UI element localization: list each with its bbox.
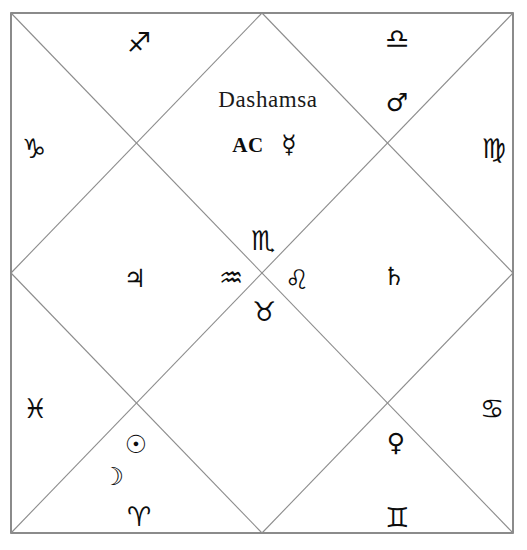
planet-jupiter-glyph[interactable]: ♃ <box>124 266 146 291</box>
chart-title: Dashamsa <box>218 87 317 113</box>
sign-cancer-glyph[interactable]: ♋ <box>480 395 504 422</box>
planet-sun-glyph[interactable]: ☉ <box>125 432 147 457</box>
sign-scorpio-glyph[interactable]: ♏ <box>251 227 275 254</box>
ascendant-label: AC <box>232 133 263 158</box>
sign-taurus-glyph[interactable]: ♉ <box>252 298 276 325</box>
planet-moon-glyph[interactable]: ☽ <box>102 464 124 489</box>
sign-pisces-glyph[interactable]: ♓ <box>23 395 47 422</box>
planet-venus-glyph[interactable]: ♀ <box>387 430 405 455</box>
sign-aries-glyph[interactable]: ♈ <box>127 503 151 530</box>
sign-virgo-glyph[interactable]: ♍ <box>482 135 506 162</box>
planet-mars-glyph[interactable]: ♂ <box>386 90 408 115</box>
sign-gemini-glyph[interactable]: ♊ <box>385 504 409 531</box>
sign-libra-glyph[interactable]: ♎ <box>385 25 409 52</box>
sign-aquarius-glyph[interactable]: ♒ <box>219 264 243 291</box>
planet-saturn-glyph[interactable]: ♄ <box>383 264 405 289</box>
dashamsa-chart: Dashamsa AC ☿ ♐ ♎ ♂ ♑ ♍ ♏ ♒ ♌ ♉ ♃ ♄ ♓ ♋ … <box>0 0 527 550</box>
sign-capricorn-glyph[interactable]: ♑ <box>22 135 46 162</box>
sign-sagittarius-glyph[interactable]: ♐ <box>127 29 151 56</box>
sign-leo-glyph[interactable]: ♌ <box>285 266 309 293</box>
planet-mercury-glyph[interactable]: ☿ <box>281 132 296 157</box>
